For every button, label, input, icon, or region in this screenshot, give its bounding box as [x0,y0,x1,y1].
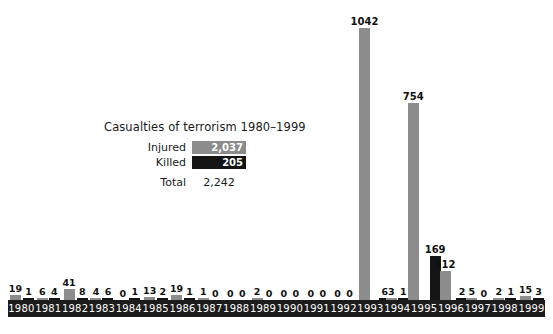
x-axis-label-1989: 1989 [250,300,277,317]
x-axis-label-1985: 1985 [142,300,169,317]
bar-value-injured-1998: 2 [495,287,502,297]
x-axis-label-1997: 1997 [464,300,491,317]
bar-value-killed-1982: 8 [79,287,86,297]
bar-killed-1989: 0 [264,289,275,300]
bar-group-1988: 00 [223,14,250,300]
bar-value-injured-1984: 0 [120,289,127,299]
bar-value-injured-1997: 5 [469,287,476,297]
bar-rect-injured-1995 [408,103,419,300]
bar-killed-1998: 1 [505,287,516,300]
x-axis-label-1992: 1992 [330,300,357,317]
bar-injured-1994: 3 [386,287,397,300]
plot-area: 1916441846011321911000200000001042631754… [8,14,545,300]
bar-injured-1982: 41 [62,278,75,300]
bar-value-injured-1995: 754 [403,92,424,102]
bar-value-injured-1990: 0 [281,289,288,299]
bar-injured-1985: 13 [143,286,156,300]
bar-injured-1989: 2 [252,287,263,300]
bar-value-injured-1988: 0 [227,289,234,299]
bar-injured-1980: 19 [9,284,22,300]
bar-group-1986: 191 [169,14,196,300]
bar-value-killed-1984: 1 [132,287,139,297]
bar-value-killed-1986: 1 [186,287,193,297]
x-axis-label-1990: 1990 [277,300,304,317]
bar-injured-1992: 0 [332,289,343,300]
x-axis-label-1982: 1982 [62,300,89,317]
bar-value-killed-1980: 1 [25,287,32,297]
x-axis-band: 1980198119821983198419851986198719881989… [8,300,545,317]
bar-value-killed-1981: 4 [51,287,58,297]
bar-group-1998: 21 [491,14,518,300]
bar-value-injured-1983: 4 [93,287,100,297]
bar-rect-injured-1993 [359,28,370,300]
x-axis-label-1994: 1994 [384,300,411,317]
x-axis-label-1984: 1984 [115,300,142,317]
x-axis-label-1986: 1986 [169,300,196,317]
bar-value-killed-1991: 0 [319,289,326,299]
bar-group-1984: 01 [115,14,142,300]
bar-killed-1997: 0 [478,289,489,300]
bar-injured-1990: 0 [278,289,289,300]
bar-group-1991: 00 [303,14,330,300]
bar-killed-1987: 0 [210,289,221,300]
bar-killed-1988: 0 [237,289,248,300]
x-axis-label-1987: 1987 [196,300,223,317]
bar-value-killed-1999: 3 [535,287,542,297]
bar-value-injured-1999: 15 [519,285,532,295]
bar-value-injured-1981: 6 [39,287,46,297]
bar-group-1983: 46 [89,14,116,300]
bar-value-killed-1990: 0 [293,289,300,299]
bar-injured-1999: 15 [519,285,532,300]
bar-killed-1981: 4 [49,287,60,300]
bar-value-injured-1980: 19 [9,284,22,294]
bar-value-injured-1989: 2 [254,287,261,297]
bar-injured-1983: 4 [90,287,101,300]
bar-killed-1984: 1 [129,287,140,300]
bar-killed-1985: 2 [157,287,168,300]
bar-value-killed-1983: 6 [105,287,112,297]
bar-value-killed-1998: 1 [507,287,514,297]
bar-group-1989: 20 [250,14,277,300]
bar-value-injured-1987: 1 [200,287,207,297]
bar-group-1985: 132 [142,14,169,300]
bar-value-killed-1989: 0 [266,289,273,299]
bar-injured-1998: 2 [493,287,504,300]
bar-value-killed-1987: 0 [212,289,219,299]
bar-group-1997: 50 [464,14,491,300]
bar-value-injured-1991: 0 [307,289,314,299]
bar-value-injured-1982: 41 [62,278,75,288]
bar-group-1982: 418 [62,14,89,300]
bar-value-injured-1993: 1042 [351,17,379,27]
bar-value-killed-1988: 0 [239,289,246,299]
bar-injured-1993: 1042 [351,17,379,300]
bar-value-injured-1986: 19 [170,284,183,294]
bar-group-1999: 153 [518,14,545,300]
bar-killed-1990: 0 [290,289,301,300]
bar-group-1980: 191 [8,14,35,300]
bar-value-injured-1994: 3 [388,287,395,297]
bar-injured-1984: 0 [117,289,128,300]
bar-injured-1995: 754 [403,92,424,300]
bar-killed-1983: 6 [102,287,113,300]
x-axis-label-1981: 1981 [35,300,62,317]
bar-killed-1982: 8 [77,287,88,300]
bar-killed-1999: 3 [533,287,544,300]
x-axis-label-1996: 1996 [438,300,465,317]
bar-value-injured-1996: 112 [435,260,456,270]
bar-killed-1986: 1 [184,287,195,300]
bar-group-1981: 64 [35,14,62,300]
x-axis-label-1998: 1998 [491,300,518,317]
bar-injured-1986: 19 [170,284,183,300]
bar-injured-1997: 5 [466,287,477,300]
bar-injured-1991: 0 [305,289,316,300]
bar-rect-injured-1996 [440,271,451,300]
bar-group-1996: 1122 [438,14,465,300]
chart-root: Casualties of terrorism 1980–1999 Injure… [0,0,553,334]
bar-injured-1987: 1 [198,287,209,300]
bar-value-injured-1992: 0 [334,289,341,299]
bar-group-1995: 754169 [411,14,438,300]
bar-injured-1996: 112 [435,260,456,300]
x-axis-label-1993: 1993 [357,300,384,317]
x-axis-label-1988: 1988 [223,300,250,317]
x-axis-label-1991: 1991 [303,300,330,317]
